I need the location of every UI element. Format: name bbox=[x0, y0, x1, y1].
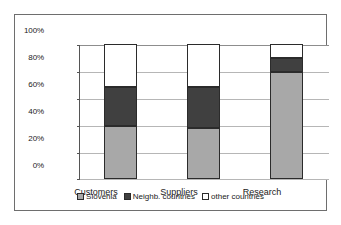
legend-swatch-icon bbox=[202, 193, 209, 200]
plot-area bbox=[79, 45, 328, 180]
bar-segment-neighb-countries[interactable] bbox=[104, 87, 137, 126]
legend-label: Neighb. countries bbox=[133, 192, 195, 201]
bar-segment-other-countries[interactable] bbox=[187, 44, 220, 87]
y-tick-mark bbox=[77, 153, 80, 154]
gridline-0 bbox=[80, 179, 329, 180]
legend-entry-slovenia[interactable]: Slovenia bbox=[77, 192, 117, 201]
bar-segment-slovenia[interactable] bbox=[104, 126, 137, 179]
y-axis-tick-label: 20% bbox=[0, 135, 44, 143]
bar-segment-other-countries[interactable] bbox=[104, 44, 137, 87]
legend-swatch-icon bbox=[124, 193, 131, 200]
y-tick-mark bbox=[77, 179, 80, 180]
legend-label: Slovenia bbox=[86, 192, 117, 201]
legend-label: other countries bbox=[211, 192, 264, 201]
y-tick-mark bbox=[77, 72, 80, 73]
legend-entry-neighb-countries[interactable]: Neighb. countries bbox=[124, 192, 195, 201]
y-tick-mark bbox=[77, 45, 80, 46]
y-axis-tick-label: 80% bbox=[0, 54, 44, 62]
y-tick-mark bbox=[77, 126, 80, 127]
legend-swatch-icon bbox=[77, 193, 84, 200]
y-tick-mark bbox=[77, 99, 80, 100]
y-axis-tick-label: 60% bbox=[0, 81, 44, 89]
bar-segment-neighb-countries[interactable] bbox=[187, 87, 220, 128]
stacked-bar-chart: 100% 80% 60% 40% 20% 0% bbox=[0, 0, 341, 225]
chart-frame: 100% 80% 60% 40% 20% 0% bbox=[14, 14, 327, 211]
bar-segment-slovenia[interactable] bbox=[187, 128, 220, 179]
chart-legend: Slovenia Neighb. countries other countri… bbox=[0, 192, 341, 201]
legend-entry-other-countries[interactable]: other countries bbox=[202, 192, 264, 201]
bar-segment-slovenia[interactable] bbox=[270, 72, 303, 179]
y-axis-tick-label: 100% bbox=[0, 27, 44, 35]
bar-segment-other-countries[interactable] bbox=[270, 44, 303, 58]
y-axis-tick-label: 0% bbox=[0, 162, 44, 170]
bar-segment-neighb-countries[interactable] bbox=[270, 58, 303, 73]
y-axis-tick-label: 40% bbox=[0, 108, 44, 116]
